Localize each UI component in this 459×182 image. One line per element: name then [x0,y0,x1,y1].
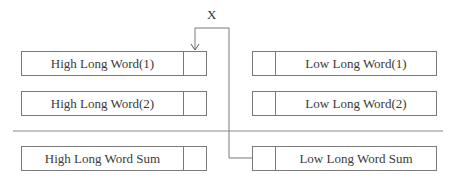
high-long-word-2-carry-cell [184,92,206,115]
low-long-word-2-box: Low Long Word(2) [252,91,437,116]
low-long-word-1-box: Low Long Word(1) [252,51,437,76]
low-long-word-sum-carry-cell [253,147,276,170]
high-long-word-2-box: High Long Word(2) [21,91,207,116]
low-long-word-2-carry-cell [253,92,276,115]
high-long-word-1-box: High Long Word(1) [21,51,207,76]
low-long-word-sum-label: Low Long Word Sum [276,147,436,170]
high-long-word-sum-label: High Long Word Sum [22,147,184,170]
low-long-word-sum-box: Low Long Word Sum [252,146,437,171]
low-long-word-1-label: Low Long Word(1) [276,52,436,75]
high-long-word-sum-box: High Long Word Sum [21,146,207,171]
high-long-word-1-carry-cell [184,52,206,75]
high-long-word-1-label: High Long Word(1) [22,52,184,75]
high-long-word-sum-carry-cell [184,147,206,170]
high-long-word-2-label: High Long Word(2) [22,92,184,115]
low-long-word-1-carry-cell [253,52,276,75]
low-long-word-2-label: Low Long Word(2) [276,92,436,115]
connector-label: X [207,7,216,23]
